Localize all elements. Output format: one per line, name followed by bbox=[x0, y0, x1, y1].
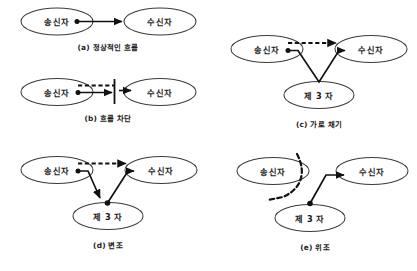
panel-e-origin-dot bbox=[307, 201, 313, 207]
panel-c-third-party-label: 제 3 자 bbox=[304, 91, 333, 101]
panel-b-caption: (b) 흐름 차단 bbox=[85, 114, 132, 123]
panel-c-receiver-label: 수신자 bbox=[358, 45, 383, 55]
panel-e-receiver-label: 수신자 bbox=[359, 167, 384, 177]
security-attack-types-figure: 송신자 수신자 (a) 정상적인 흐름 송신자 수신자 (b) 흐름 차단 송신… bbox=[0, 0, 417, 271]
panel-d-inbound-origin-dot bbox=[76, 169, 81, 174]
panel-b-sender-label: 송신자 bbox=[44, 88, 69, 98]
panel-b-receiver-label: 수신자 bbox=[147, 88, 172, 98]
panel-d-outbound-origin-dot bbox=[105, 200, 111, 206]
panel-a-caption: (a) 정상적인 흐름 bbox=[77, 43, 138, 52]
panel-d-third-party-label: 제 3 자 bbox=[93, 212, 122, 222]
panel-d-sender-label: 송신자 bbox=[44, 166, 69, 176]
panel-d-caption: (d) 변조 bbox=[93, 241, 123, 250]
panel-c-origin-dot bbox=[286, 48, 291, 53]
panel-c-caption: (c) 가로 채기 bbox=[296, 120, 342, 129]
panel-e-sender-label: 송신자 bbox=[260, 167, 285, 177]
panel-e-caption: (e) 위조 bbox=[300, 243, 330, 252]
panel-c-sender-label: 송신자 bbox=[254, 45, 279, 55]
panel-a-receiver-label: 수신자 bbox=[147, 17, 172, 27]
panel-a-origin-dot bbox=[75, 19, 80, 24]
panel-e-third-party-label: 제 3 자 bbox=[295, 214, 324, 224]
panel-a-sender-label: 송신자 bbox=[44, 17, 69, 27]
panel-b-origin-dot bbox=[76, 90, 81, 95]
panel-d-receiver-label: 수신자 bbox=[148, 166, 173, 176]
